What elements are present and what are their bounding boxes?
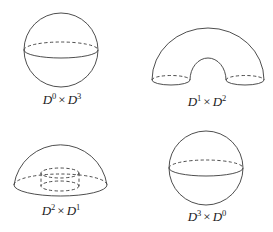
equator-front: [169, 168, 243, 176]
sphere-outline: [169, 131, 243, 205]
base-back-dashed: [14, 174, 107, 185]
panel-d2xd1: D2×D1: [14, 145, 107, 218]
equator-back-dashed: [24, 42, 98, 50]
sphere-outline: [24, 13, 98, 87]
right-end-front: [226, 80, 264, 85]
panel-d3xd0: D3×D0: [169, 131, 243, 224]
handle-decomposition-diagram: D0×D3 D1×D2 D2×D1 D3×D0: [0, 0, 273, 232]
left-end-back-dashed: [152, 76, 190, 81]
panel-d1xd2: D1×D2: [152, 28, 264, 109]
equator-back-dashed: [169, 160, 243, 168]
right-end-back-dashed: [226, 76, 264, 81]
label-d3xd0: D3×D0: [187, 208, 227, 224]
inner-cylinder-top-dashed: [41, 168, 79, 178]
equator-front: [24, 50, 98, 58]
base-front: [14, 185, 107, 196]
left-end-front: [152, 80, 190, 85]
label-d1xd2: D1×D2: [187, 93, 227, 109]
arch-inner: [190, 58, 226, 80]
label-d2xd1: D2×D1: [41, 202, 81, 218]
arch-outer: [152, 28, 264, 80]
inner-cylinder-bottom-dashed: [41, 181, 79, 191]
label-d0xd3: D0×D3: [42, 91, 82, 107]
panel-d0xd3: D0×D3: [24, 13, 98, 107]
hemisphere-dome: [14, 145, 107, 185]
